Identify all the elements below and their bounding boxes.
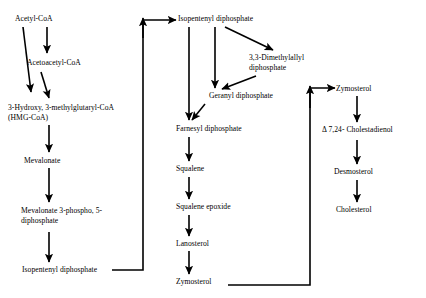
connector-left-ipp-to-top-ipp xyxy=(112,20,176,270)
pathway-diagram: Acetyl-CoA Acetoacetyl-CoA 3-Hydroxy, 3-… xyxy=(0,0,426,298)
node-desmosterol: Desmosterol xyxy=(334,167,373,177)
node-squalene: Squalene xyxy=(176,164,204,174)
node-acetyl-coa: Acetyl-CoA xyxy=(15,14,53,24)
node-mevalonate-phospho-line2: diphosphate xyxy=(21,216,58,226)
node-geranyl-diphosphate: Geranyl diphosphate xyxy=(209,91,273,101)
node-isopentenyl-diphosphate-top: Isopentenyl diphosphate xyxy=(178,14,253,24)
arrow-layer xyxy=(0,0,426,298)
arrow-geranyl-to-farnesyl xyxy=(192,104,205,120)
arrow-acetoacetylcoa-to-hmgcoa xyxy=(41,72,49,98)
node-hmg-coa-line2: (HMG-CoA) xyxy=(8,113,48,123)
node-acetoacetyl-coa: Acetoacetyl-CoA xyxy=(27,58,81,68)
connector-middle-zymosterol-to-right-zymosterol xyxy=(228,88,335,285)
node-zymosterol-middle: Zymosterol xyxy=(176,277,212,287)
node-farnesyl-diphosphate: Farnesyl diphosphate xyxy=(176,124,242,134)
arrow-ipp-to-dimethylallyl xyxy=(225,27,273,50)
node-cholestadienol: Δ 7,24- Cholestadienol xyxy=(322,125,393,135)
node-squalene-epoxide: Squalene epoxide xyxy=(176,202,231,212)
arrow-dimethylallyl-to-geranyl xyxy=(222,76,256,89)
node-mevalonate: Mevalonate xyxy=(24,156,60,166)
node-lanosterol: Lanosterol xyxy=(176,239,209,249)
node-hmg-coa-line1: 3-Hydroxy, 3-methylglutaryl-CoA xyxy=(8,103,114,113)
node-zymosterol-right: Zymosterol xyxy=(336,84,372,94)
node-dimethylallyl-line2: diphosphate xyxy=(249,63,286,73)
node-cholesterol: Cholesterol xyxy=(336,205,372,215)
node-dimethylallyl-line1: 3,3-Dimethylallyl xyxy=(249,53,304,63)
node-isopentenyl-diphosphate-left: Isopentenyl diphosphate xyxy=(22,265,97,275)
node-mevalonate-phospho-line1: Mevalonate 3-phospho, 5- xyxy=(21,206,102,216)
